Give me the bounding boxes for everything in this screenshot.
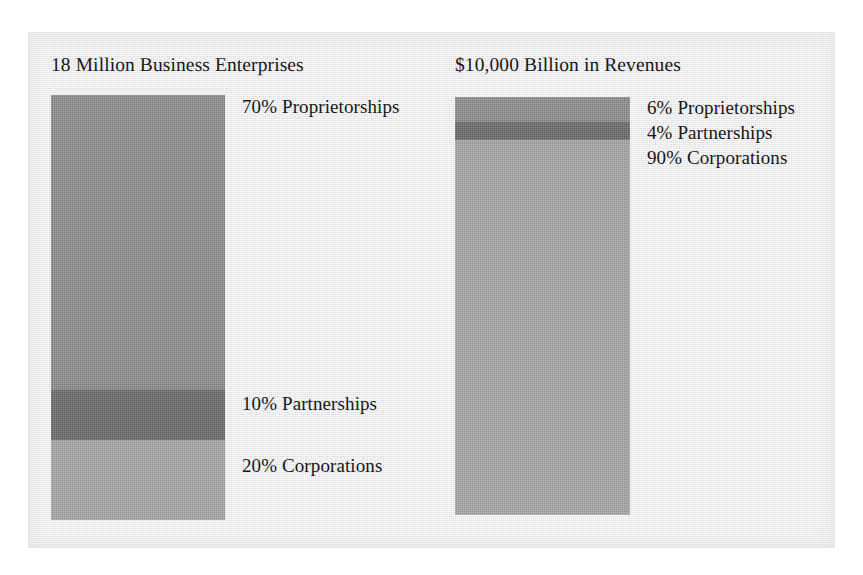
bar-segment-partnerships [51, 390, 225, 440]
label-revenues-proprietorships: 6% Proprietorships [647, 98, 795, 117]
bar-segment-proprietorships [51, 95, 225, 390]
label-revenues-partnerships: 4% Partnerships [647, 123, 773, 142]
figure-panel: 18 Million Business Enterprises 70% Prop… [28, 32, 835, 548]
chart-revenues: $10,000 Billion in Revenues 6% Proprieto… [432, 32, 835, 548]
chart-business-enterprises: 18 Million Business Enterprises 70% Prop… [28, 32, 458, 548]
chart-title-revenues: $10,000 Billion in Revenues [455, 55, 681, 77]
label-revenues-corporations: 90% Corporations [647, 148, 787, 167]
bar-segment-partnerships [455, 122, 630, 140]
bar-segment-corporations [51, 440, 225, 520]
label-enterprises-corporations: 20% Corporations [242, 456, 382, 475]
stacked-bar-revenues [455, 97, 630, 515]
bar-segment-proprietorships [455, 97, 630, 122]
label-enterprises-partnerships: 10% Partnerships [242, 394, 377, 413]
bar-segment-corporations [455, 140, 630, 515]
label-enterprises-proprietorships: 70% Proprietorships [242, 97, 400, 116]
stacked-bar-enterprises [51, 95, 225, 520]
chart-title-enterprises: 18 Million Business Enterprises [51, 55, 304, 77]
